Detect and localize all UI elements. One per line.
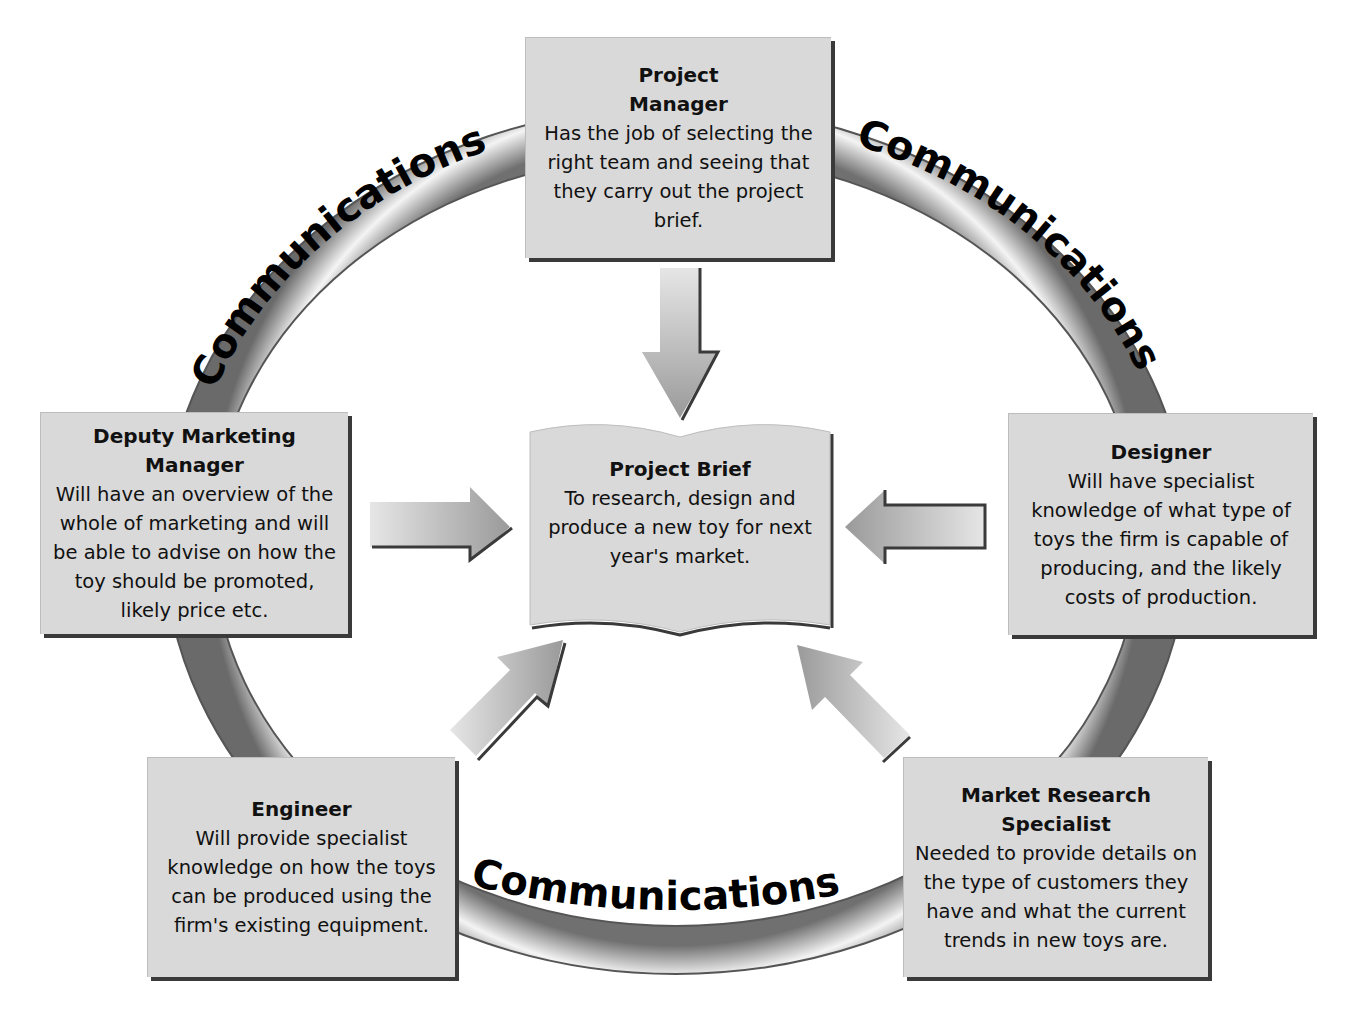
arrow-right-from-deputy (370, 487, 512, 562)
role-box-market-research-specialist: Market Research Specialist Needed to pro… (903, 757, 1208, 977)
role-box-deputy-marketing-manager: Deputy Marketing Manager Will have an ov… (40, 412, 348, 634)
arrow-down-from-project-manager (642, 268, 718, 420)
role-box-engineer: Engineer Will provide specialist knowled… (147, 757, 455, 977)
project-brief: Project Brief To research, design and pr… (530, 455, 830, 571)
role-title: Deputy Marketing Manager (49, 422, 340, 480)
role-box-project-manager: Project Manager Has the job of selecting… (525, 37, 831, 258)
project-brief-title: Project Brief (530, 455, 830, 484)
role-box-designer: Designer Will have specialist knowledge … (1008, 413, 1313, 635)
role-description: Will have an overview of the whole of ma… (49, 480, 340, 625)
arrow-up-right-from-engineer (450, 640, 565, 760)
role-title: Engineer (156, 795, 447, 824)
role-title: Market Research Specialist (912, 781, 1200, 839)
role-description: Will have specialist knowledge of what t… (1017, 467, 1305, 612)
role-title: Project Manager (534, 61, 823, 119)
role-description: Needed to provide details on the type of… (912, 839, 1200, 955)
role-title: Designer (1017, 438, 1305, 467)
role-description: Will provide specialist knowledge on how… (156, 824, 447, 940)
project-brief-description: To research, design and produce a new to… (530, 484, 830, 571)
role-description: Has the job of selecting the right team … (534, 119, 823, 235)
arrow-up-left-from-market-research (797, 645, 910, 762)
arrow-left-from-designer (845, 490, 985, 564)
